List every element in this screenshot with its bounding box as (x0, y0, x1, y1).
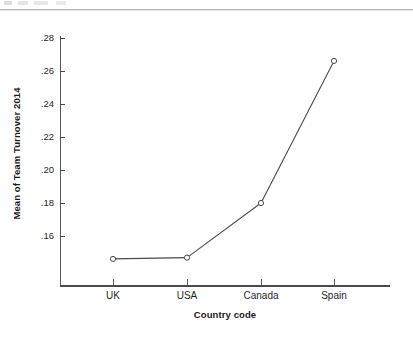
plot-area (0, 10, 413, 344)
chart-page: Mean of Team Turnover 2014 .28 .26 .24 .… (0, 0, 413, 344)
scan-artifact (4, 1, 124, 5)
data-series-line (113, 61, 334, 259)
data-point-uk (110, 256, 115, 261)
data-point-usa (184, 255, 189, 260)
data-point-spain (331, 58, 336, 63)
line-chart: Mean of Team Turnover 2014 .28 .26 .24 .… (0, 10, 413, 344)
data-point-canada (258, 200, 263, 205)
